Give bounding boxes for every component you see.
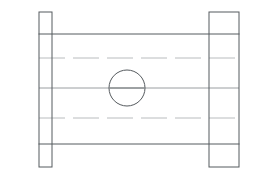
technical-drawing-canvas bbox=[0, 0, 270, 179]
drawing-svg bbox=[0, 0, 270, 179]
